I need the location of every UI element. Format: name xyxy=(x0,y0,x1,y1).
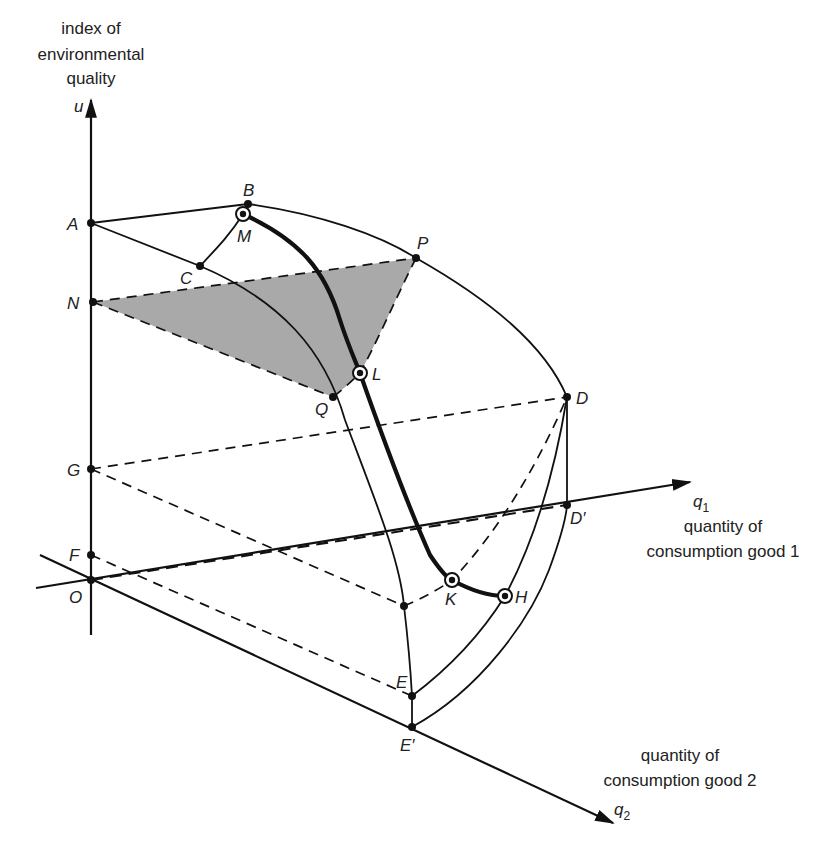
point-E-prime xyxy=(408,723,416,731)
label-D: D xyxy=(576,389,588,408)
svg-text:quantity of: quantity of xyxy=(684,517,763,536)
point-intersection xyxy=(400,602,408,610)
label-D-prime: D′ xyxy=(570,509,586,528)
label-K: K xyxy=(445,590,457,609)
q1-axis xyxy=(36,482,690,588)
point-O xyxy=(87,576,95,584)
label-F: F xyxy=(69,546,81,565)
edge-A-B xyxy=(91,204,248,223)
dash-O-D-prime xyxy=(91,505,567,580)
label-E-prime: E′ xyxy=(400,736,415,755)
point-A xyxy=(87,219,95,227)
u-axis-symbol: u xyxy=(74,97,84,116)
label-M: M xyxy=(237,227,252,246)
label-Q: Q xyxy=(315,400,328,419)
label-O: O xyxy=(69,588,82,607)
point-P xyxy=(412,254,420,262)
u-axis-caption: index of environmental quality xyxy=(38,19,145,88)
svg-text:consumption good 1: consumption good 1 xyxy=(646,542,799,561)
label-P: P xyxy=(417,234,429,253)
q1-axis-symbol: q1 xyxy=(693,492,709,515)
label-A: A xyxy=(66,215,78,234)
point-D-prime xyxy=(563,501,571,509)
label-C: C xyxy=(180,269,193,288)
point-E xyxy=(408,692,416,700)
label-N: N xyxy=(67,294,80,313)
q2-axis-caption: quantity of consumption good 2 xyxy=(603,746,756,790)
svg-text:index of: index of xyxy=(61,19,121,38)
label-G: G xyxy=(67,461,80,480)
label-E: E xyxy=(396,673,408,692)
svg-text:quantity of: quantity of xyxy=(641,746,720,765)
svg-text:environmental: environmental xyxy=(38,45,145,64)
label-B: B xyxy=(243,181,254,200)
point-Q xyxy=(329,393,337,401)
dash-F-E xyxy=(91,555,412,696)
q2-axis-symbol: q2 xyxy=(614,800,630,823)
shaded-region xyxy=(93,258,416,397)
diagram-canvas: A B C M N P L Q D D′ G F O K H E E′ u q1… xyxy=(0,0,831,852)
svg-text:quality: quality xyxy=(66,69,116,88)
point-G xyxy=(87,465,95,473)
svg-text:consumption good 2: consumption good 2 xyxy=(603,771,756,790)
dash-G-D xyxy=(91,397,567,469)
q1-axis-caption: quantity of consumption good 1 xyxy=(646,517,799,561)
point-D xyxy=(563,393,571,401)
curve-E-H-D xyxy=(412,397,567,696)
label-L: L xyxy=(372,365,381,384)
point-C xyxy=(196,262,204,270)
point-N xyxy=(89,298,97,306)
label-H: H xyxy=(515,588,528,607)
diagram: A B C M N P L Q D D′ G F O K H E E′ u q1… xyxy=(0,0,831,852)
curve-E-prime-D-prime xyxy=(412,505,567,727)
point-F xyxy=(87,551,95,559)
